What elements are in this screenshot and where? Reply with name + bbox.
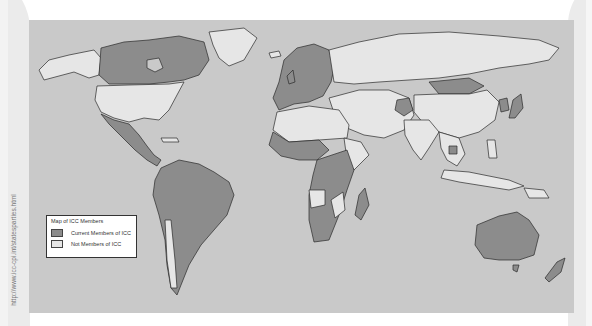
region-new-zealand [545,258,565,282]
legend-item-members: Current Members of ICC [51,228,132,239]
legend-label-non-members: Not Members of ICC [71,241,121,247]
region-alaska [39,50,101,80]
region-cambodia [449,146,457,154]
region-usa [95,82,184,122]
region-japan [509,94,523,118]
source-url-text: http://www.icc-cpi.int/statesparties.htm… [10,194,17,306]
region-russia [329,32,559,84]
region-indonesia [441,170,524,190]
legend-title: Map of ICC Members [51,219,132,225]
source-url-caption: http://www.icc-cpi.int/statesparties.htm… [2,190,24,310]
region-north-africa [273,106,349,142]
region-europe [273,44,334,110]
world-map: Map of ICC Members Current Members of IC… [29,20,574,313]
world-map-graphic [29,20,574,313]
region-korea [499,98,509,112]
legend-item-non-members: Not Members of ICC [51,239,132,250]
region-madagascar [355,188,369,220]
region-greenland [209,28,257,66]
region-mongolia [429,78,484,94]
legend-swatch-non-members [51,240,63,248]
region-australia [475,212,539,260]
map-legend: Map of ICC Members Current Members of IC… [46,215,137,258]
legend-label-members: Current Members of ICC [71,230,131,236]
legend-swatch-members [51,229,63,237]
region-india [404,120,439,160]
